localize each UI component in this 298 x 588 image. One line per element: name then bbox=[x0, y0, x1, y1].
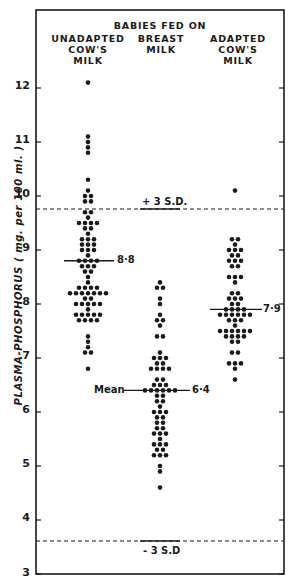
data-dot bbox=[98, 313, 103, 318]
data-dot bbox=[158, 442, 163, 447]
y-axis-ticks bbox=[36, 88, 284, 574]
data-dot bbox=[161, 421, 166, 426]
data-dot bbox=[77, 286, 82, 291]
data-dot bbox=[161, 377, 166, 382]
header-line: MILK bbox=[130, 44, 192, 55]
data-dot bbox=[158, 453, 163, 458]
data-dot bbox=[152, 410, 157, 415]
data-dot bbox=[161, 399, 166, 404]
dot-plot-chart bbox=[0, 0, 298, 588]
header-line: BREAST bbox=[130, 33, 192, 44]
data-dot bbox=[230, 291, 235, 296]
data-dot bbox=[86, 302, 91, 307]
data-dot bbox=[164, 383, 169, 388]
data-dot bbox=[74, 313, 79, 318]
data-dot bbox=[86, 151, 91, 156]
data-dot bbox=[158, 383, 163, 388]
data-dot bbox=[86, 134, 91, 139]
data-dot bbox=[83, 199, 88, 204]
data-dot bbox=[83, 269, 88, 274]
mean-value-adapted: 7·9 bbox=[263, 303, 281, 314]
mean-value-breast: 6·4 bbox=[192, 384, 210, 395]
data-dot bbox=[236, 237, 241, 242]
data-dot bbox=[161, 394, 166, 399]
data-dot bbox=[152, 431, 157, 436]
data-dot bbox=[233, 323, 238, 328]
y-tick-label: 4 bbox=[14, 511, 30, 524]
y-tick-label: 8 bbox=[14, 295, 30, 308]
data-dot bbox=[242, 313, 247, 318]
data-dot bbox=[158, 296, 163, 301]
data-dot bbox=[161, 448, 166, 453]
data-dot bbox=[89, 194, 94, 199]
data-dot bbox=[86, 215, 91, 220]
data-dots bbox=[68, 80, 253, 490]
data-dot bbox=[86, 140, 91, 145]
data-dot bbox=[233, 280, 238, 285]
data-dot bbox=[104, 291, 109, 296]
data-dot bbox=[98, 291, 103, 296]
data-dot bbox=[236, 329, 241, 334]
data-dot bbox=[155, 421, 160, 426]
data-dot bbox=[155, 399, 160, 404]
data-dot bbox=[83, 210, 88, 215]
data-dot bbox=[161, 415, 166, 420]
data-dot bbox=[233, 377, 238, 382]
data-dot bbox=[242, 334, 247, 339]
data-dot bbox=[80, 242, 85, 247]
data-dot bbox=[233, 242, 238, 247]
data-dot bbox=[239, 318, 244, 323]
data-dot bbox=[86, 291, 91, 296]
data-dot bbox=[89, 296, 94, 301]
data-dot bbox=[86, 237, 91, 242]
data-dot bbox=[155, 361, 160, 366]
data-dot bbox=[230, 340, 235, 345]
data-dot bbox=[230, 237, 235, 242]
data-dot bbox=[158, 464, 163, 469]
data-dot bbox=[155, 377, 160, 382]
data-dot bbox=[224, 334, 229, 339]
mean-value-unadapted: 8·8 bbox=[117, 254, 135, 265]
data-dot bbox=[218, 329, 223, 334]
data-dot bbox=[164, 453, 169, 458]
data-dot bbox=[74, 291, 79, 296]
data-dot bbox=[236, 302, 241, 307]
data-dot bbox=[80, 248, 85, 253]
data-dot bbox=[152, 442, 157, 447]
data-dot bbox=[233, 367, 238, 372]
data-dot bbox=[89, 210, 94, 215]
data-dot bbox=[155, 415, 160, 420]
data-dot bbox=[68, 291, 73, 296]
y-tick-label: 5 bbox=[14, 457, 30, 470]
data-dot bbox=[83, 226, 88, 231]
data-dot bbox=[77, 221, 82, 226]
data-dot bbox=[248, 329, 253, 334]
data-dot bbox=[155, 334, 160, 339]
data-dot bbox=[89, 350, 94, 355]
data-dot bbox=[83, 350, 88, 355]
data-dot bbox=[83, 318, 88, 323]
header-line: UNADAPTED bbox=[46, 33, 130, 44]
data-dot bbox=[86, 188, 91, 193]
data-dot bbox=[89, 199, 94, 204]
data-dot bbox=[218, 313, 223, 318]
data-dot bbox=[155, 448, 160, 453]
data-dot bbox=[164, 410, 169, 415]
data-dot bbox=[236, 264, 241, 269]
data-dot bbox=[83, 221, 88, 226]
data-dot bbox=[83, 194, 88, 199]
data-dot bbox=[239, 259, 244, 264]
data-dot bbox=[230, 313, 235, 318]
data-dot bbox=[86, 242, 91, 247]
mean-word-label: Mean bbox=[94, 384, 125, 395]
data-dot bbox=[239, 248, 244, 253]
data-dot bbox=[236, 340, 241, 345]
header-line: ADAPTED bbox=[200, 33, 276, 44]
data-dot bbox=[230, 329, 235, 334]
data-dot bbox=[86, 280, 91, 285]
data-dot bbox=[95, 286, 100, 291]
data-dot bbox=[158, 431, 163, 436]
data-dot bbox=[233, 188, 238, 193]
data-dot bbox=[224, 313, 229, 318]
data-dot bbox=[230, 264, 235, 269]
